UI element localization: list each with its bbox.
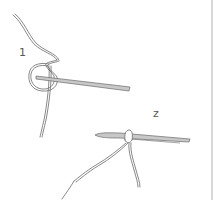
step-1-label: 1 (19, 47, 26, 58)
illustration: 1 z (0, 0, 214, 213)
step-2-needle (95, 133, 190, 143)
step-1-drawing (13, 14, 59, 137)
step-2-label: z (153, 108, 159, 119)
step-2-drawing (62, 130, 140, 199)
right-edge-divider (211, 0, 213, 200)
knitting-diagram (0, 0, 214, 213)
